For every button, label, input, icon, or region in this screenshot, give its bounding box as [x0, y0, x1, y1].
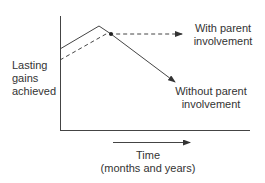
- with-involvement-label: With parent involvement: [188, 22, 258, 48]
- divergence-point: [109, 32, 113, 36]
- without-involvement-label: Without parent involvement: [172, 85, 250, 111]
- x-axis-label: Time (months and years): [98, 149, 198, 175]
- y-axis-label: Lasting gains achieved: [12, 59, 56, 98]
